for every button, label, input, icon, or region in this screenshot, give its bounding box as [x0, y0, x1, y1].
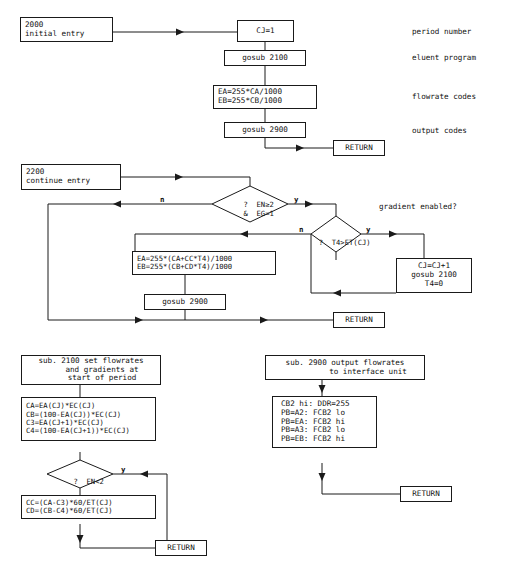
node-ea-eb-continue[interactable]: EA=255*(CA+CC*T4)/1000 EB=255*(CB+CD*T4)… [132, 251, 276, 275]
node-sub2100-calc[interactable]: CA=EA(CJ)*EC(CJ) CB=(100-EA(CJ))*EC(CJ) … [21, 397, 156, 441]
annotation-output-codes: output codes [412, 126, 467, 135]
node-line: RETURN [167, 544, 194, 553]
node-gosub-2900-continue[interactable]: gosub 2900 [144, 294, 226, 310]
node-initial-entry[interactable]: 2000 initial entry [20, 17, 113, 42]
node-line: CJ=1 [256, 27, 274, 36]
node-line: RETURN [412, 490, 439, 499]
node-return-sub2900[interactable]: RETURN [400, 486, 452, 502]
annotation-gradient-enabled: gradient enabled? [379, 202, 457, 211]
node-line: EB=255*(CB+CD*T4)/1000 [137, 263, 275, 271]
node-line: continue entry [26, 177, 120, 186]
node-cj-increment[interactable]: CJ=CJ+1 gosub 2100 T4=0 [396, 258, 472, 293]
node-gosub-2900-top[interactable]: gosub 2900 [224, 122, 306, 138]
node-return-continue[interactable]: RETURN [333, 312, 385, 328]
branch-label-t4-no: n [299, 225, 303, 234]
node-cj-init[interactable]: CJ=1 [237, 20, 294, 42]
node-gosub-2100-top[interactable]: gosub 2100 [224, 50, 306, 66]
branch-label-t4-yes: y [366, 225, 370, 234]
node-line: PB=EB: FCB2 hi [281, 435, 376, 444]
node-ea-eb-initial[interactable]: EA=255*CA/1000 EB=255*CB/1000 [213, 85, 317, 109]
node-line: EB=255*CB/1000 [218, 97, 316, 106]
node-sub2900-ports[interactable]: CB2 hi: DDR=255 PB=A2: FCB2 lo PB=EA: FC… [272, 396, 377, 448]
branch-label-gradient-no: n [160, 195, 164, 204]
node-sub2900-header[interactable]: sub. 2900 output flowrates to interface … [265, 355, 425, 380]
decision-t4-label: ? T4>ET(CJ) [291, 231, 381, 256]
node-line: gosub 2900 [242, 126, 288, 135]
node-line: gosub 2100 [242, 54, 288, 63]
decision-en-lt-2-label: ? EN<2 [47, 470, 113, 495]
branch-label-en-lt-2-yes: y [121, 465, 125, 474]
node-return-sub2100[interactable]: RETURN [155, 540, 207, 556]
decision-line: & EG=1 [244, 209, 274, 218]
node-line: gosub 2900 [162, 298, 208, 307]
node-line: RETURN [345, 316, 372, 325]
node-sub2100-header[interactable]: sub. 2100 set flowrates and gradients at… [21, 355, 161, 385]
decision-line: ? T4>ET(CJ) [319, 238, 371, 247]
node-line: T4=0 [425, 280, 443, 289]
node-line: C4=(100-EA(CJ+1))*EC(CJ) [26, 427, 155, 435]
annotation-eluent-program: eluent program [412, 53, 476, 62]
node-line: initial entry [25, 30, 112, 39]
decision-line: ? EN<2 [74, 477, 104, 486]
node-line: start of period [46, 374, 137, 383]
decision-gradient-label: ? EN≥2 & EG=1 [212, 193, 288, 226]
node-line: to interface unit [283, 368, 407, 377]
node-continue-entry[interactable]: 2200 continue entry [21, 164, 121, 190]
node-return-initial[interactable]: RETURN [333, 140, 385, 156]
node-line: RETURN [345, 144, 372, 153]
node-line: CD=(CB-C4)*60/ET(CJ) [26, 507, 155, 515]
flowchart-canvas: 2000 initial entry CJ=1 gosub 2100 EA=25… [0, 0, 521, 576]
branch-label-gradient-yes: y [294, 195, 298, 204]
annotation-period-number: period number [412, 27, 471, 36]
annotation-flowrate-codes: flowrate codes [412, 92, 476, 101]
node-sub2100-gradients[interactable]: CC=(CA-C3)*60/ET(CJ) CD=(CB-C4)*60/ET(CJ… [21, 495, 156, 519]
